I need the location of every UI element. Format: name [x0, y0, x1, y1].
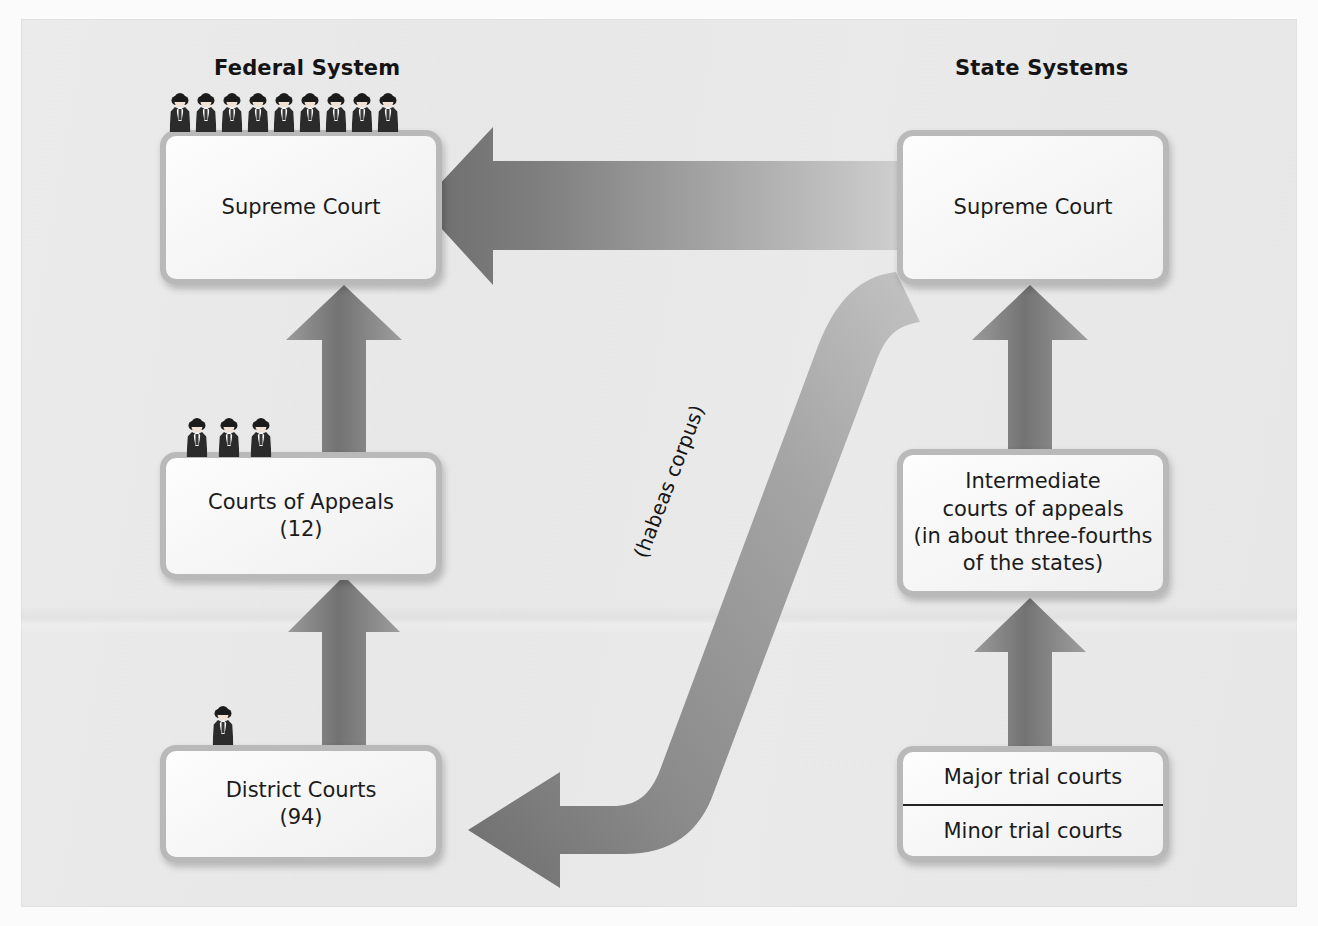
diagram-page: Federal System State Systems Supreme Cou… — [0, 0, 1318, 926]
courts-of-appeals-line1: Courts of Appeals — [208, 489, 394, 516]
judge-figure-icon — [212, 709, 234, 745]
box-federal-supreme-court[interactable]: Supreme Court — [160, 130, 442, 285]
judge-figure-icon — [195, 96, 217, 132]
courts-of-appeals-judges — [186, 421, 272, 457]
courts-of-appeals-line2: (12) — [208, 516, 394, 543]
box-federal-supreme-court-label: Supreme Court — [216, 192, 387, 223]
district-courts-line1: District Courts — [226, 777, 377, 804]
judge-figure-icon — [377, 96, 399, 132]
intermediate-line4: of the states) — [913, 550, 1152, 577]
major-trial-courts-label: Major trial courts — [944, 764, 1123, 791]
judge-figure-icon — [218, 421, 240, 457]
major-trial-courts-row[interactable]: Major trial courts — [903, 752, 1163, 806]
judge-figure-icon — [247, 96, 269, 132]
box-state-supreme-court[interactable]: Supreme Court — [897, 130, 1169, 285]
judge-figure-icon — [221, 96, 243, 132]
judge-figure-icon — [325, 96, 347, 132]
minor-trial-courts-row[interactable]: Minor trial courts — [903, 806, 1163, 858]
box-state-supreme-court-label: Supreme Court — [948, 192, 1119, 223]
federal-supreme-court-judges — [169, 96, 399, 132]
intermediate-line3: (in about three-fourths — [913, 523, 1152, 550]
judge-figure-icon — [250, 421, 272, 457]
intermediate-line1: Intermediate — [913, 468, 1152, 495]
box-state-trial-courts[interactable]: Major trial courts Minor trial courts — [897, 746, 1169, 862]
district-courts-judge — [212, 709, 234, 745]
judge-figure-icon — [186, 421, 208, 457]
judge-figure-icon — [351, 96, 373, 132]
box-district-courts[interactable]: District Courts (94) — [160, 745, 442, 863]
box-intermediate-courts-of-appeals[interactable]: Intermediate courts of appeals (in about… — [897, 449, 1169, 597]
minor-trial-courts-label: Minor trial courts — [943, 818, 1122, 845]
intermediate-line2: courts of appeals — [913, 496, 1152, 523]
district-courts-line2: (94) — [226, 804, 377, 831]
box-courts-of-appeals[interactable]: Courts of Appeals (12) — [160, 452, 442, 580]
judge-figure-icon — [273, 96, 295, 132]
judge-figure-icon — [169, 96, 191, 132]
judge-figure-icon — [299, 96, 321, 132]
